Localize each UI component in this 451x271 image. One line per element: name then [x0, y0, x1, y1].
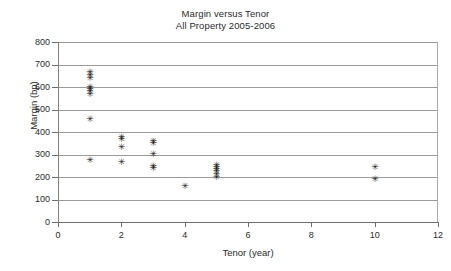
- x-tick-label-6: 6: [233, 230, 263, 240]
- x-tick-mark-2: [121, 222, 122, 227]
- y-axis-label: Margin (bp): [28, 51, 39, 161]
- x-tick-label-8: 8: [296, 230, 326, 240]
- plot-frame: [58, 42, 438, 222]
- x-tick-label-0: 0: [43, 230, 73, 240]
- x-tick-label-4: 4: [170, 230, 200, 240]
- chart-title: Margin versus Tenor: [0, 8, 451, 20]
- y-tick-label-0: 0: [10, 218, 50, 227]
- x-tick-mark-4: [185, 222, 186, 227]
- y-tick-label-800: 800: [10, 38, 50, 47]
- x-tick-mark-12: [438, 222, 439, 227]
- chart-subtitle: All Property 2005-2006: [0, 20, 451, 32]
- x-tick-mark-6: [248, 222, 249, 227]
- x-tick-mark-0: [58, 222, 59, 227]
- x-tick-label-10: 10: [360, 230, 390, 240]
- x-tick-mark-10: [375, 222, 376, 227]
- chart-title-block: Margin versus Tenor All Property 2005-20…: [0, 8, 451, 32]
- x-tick-label-12: 12: [423, 230, 451, 240]
- y-tick-label-200: 200: [10, 173, 50, 182]
- x-axis-label: Tenor (year): [58, 247, 438, 258]
- x-tick-mark-8: [311, 222, 312, 227]
- plot-area: ✳✳✳✳✳✳✳✳✳✳✳✳✳✳✳✳✳✳✳✳✳✳✳✳✳✳✳: [58, 42, 438, 222]
- y-tick-label-100: 100: [10, 195, 50, 204]
- x-tick-label-2: 2: [106, 230, 136, 240]
- chart-figure: Margin versus Tenor All Property 2005-20…: [0, 0, 451, 271]
